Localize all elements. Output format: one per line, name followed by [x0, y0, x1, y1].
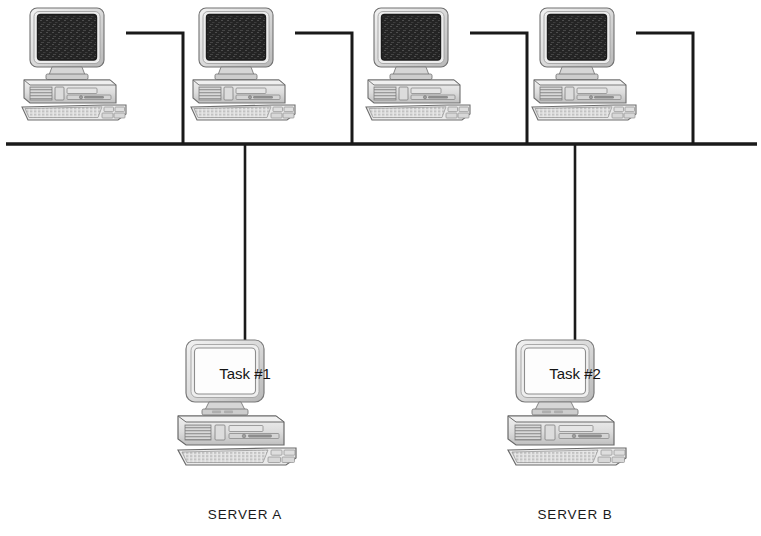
diagram-svg: Task #1 SERVER A Task #2 SERVER B: [0, 0, 761, 536]
server-b-screen-label: Task #2: [549, 365, 601, 382]
server-b[interactable]: Task #2 SERVER B: [508, 340, 626, 522]
cable-workstation-2: [295, 33, 352, 144]
network-diagram: Task #1 SERVER A Task #2 SERVER B: [0, 0, 761, 536]
cable-workstation-4: [636, 33, 693, 144]
server-b-label: SERVER B: [537, 507, 612, 522]
workstation-3[interactable]: [366, 8, 470, 120]
workstation-2[interactable]: [191, 8, 295, 120]
server-a-label: SERVER A: [208, 507, 282, 522]
cable-workstation-1: [126, 33, 183, 144]
workstation-1[interactable]: [22, 8, 126, 120]
server-a-screen-label: Task #1: [219, 365, 271, 382]
server-a[interactable]: Task #1 SERVER A: [178, 340, 296, 522]
workstation-4[interactable]: [532, 8, 636, 120]
cable-workstation-3: [470, 33, 527, 144]
